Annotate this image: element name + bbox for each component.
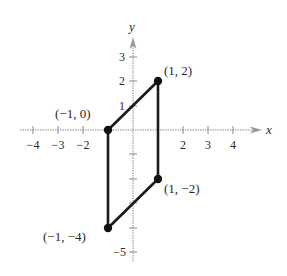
x-tick-label: 3 — [205, 138, 211, 152]
vertex-label: (1, −2) — [164, 181, 200, 196]
x-tick-label: −3 — [52, 138, 65, 152]
coordinate-plane-figure: x y −4 −3 −2 2 3 4 3 2 1 −5 — [0, 0, 287, 276]
y-tick-label: 2 — [119, 74, 125, 88]
y-tick-label: 3 — [119, 50, 125, 64]
vertex-label: (1, 2) — [164, 63, 192, 78]
vertex-point — [154, 77, 162, 85]
x-tick-label: 4 — [230, 138, 236, 152]
y-tick-label: −5 — [113, 245, 126, 259]
x-tick-label: 2 — [180, 138, 186, 152]
vertex-point — [104, 224, 112, 232]
vertex-point — [154, 175, 162, 183]
y-axis-label: y — [127, 19, 135, 34]
y-axis-arrow-icon — [130, 37, 137, 49]
vertex-label: (−1, 0) — [55, 106, 91, 121]
vertex-label: (−1, −4) — [43, 229, 86, 244]
x-axis-label: x — [265, 122, 272, 137]
x-tick-label: −4 — [27, 138, 40, 152]
vertex-point — [104, 126, 112, 134]
y-tick-label: 1 — [119, 99, 125, 113]
y-tick-labels: 3 2 1 −5 — [113, 50, 126, 259]
x-tick-labels: −4 −3 −2 2 3 4 — [27, 138, 236, 152]
x-tick-label: −2 — [77, 138, 90, 152]
x-axis-arrow-icon — [250, 127, 262, 134]
